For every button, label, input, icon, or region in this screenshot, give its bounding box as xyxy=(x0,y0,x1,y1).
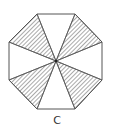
hatched-sector-bottom-left xyxy=(9,61,56,109)
hatched-sector-bottom-right xyxy=(56,61,102,109)
figure-caption: C xyxy=(0,114,114,127)
center-point xyxy=(55,60,57,62)
hatched-sector-top-left xyxy=(9,14,56,61)
hatched-sector-top-right xyxy=(56,14,102,61)
